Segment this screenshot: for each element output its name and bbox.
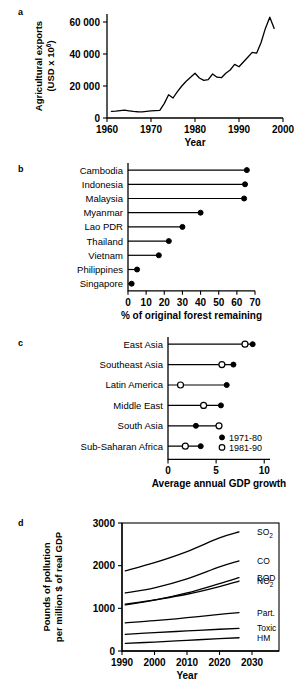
x-tick-label: 70 <box>249 297 261 308</box>
series-label-hm: HM <box>257 633 270 643</box>
x-tick-label: 2020 <box>208 657 231 668</box>
panel-d-pollution-intensity: d 199020002010202020300100020003000YearP… <box>0 495 299 692</box>
x-tick-label: 0 <box>125 297 131 308</box>
data-point-1981-90 <box>182 443 188 449</box>
series-label-so2: SO2 <box>257 527 273 539</box>
y-axis-title-line2: per million $ of real GDP <box>53 531 64 642</box>
data-point <box>242 196 247 201</box>
category-label: Vietnam <box>88 250 123 261</box>
y-tick-label: 40 000 <box>69 49 100 60</box>
panel-b-chart: CambodiaIndonesiaMalaysiaMyanmarLao PDRT… <box>0 155 299 323</box>
data-line-hm <box>125 638 239 644</box>
y-tick-label: 2000 <box>93 560 116 571</box>
y-tick-label: 60 000 <box>69 17 100 28</box>
data-point-1981-90 <box>219 362 225 368</box>
y-axis-title-line1: Pounds of pollution <box>41 542 52 631</box>
x-axis-title: Year <box>176 670 197 681</box>
data-point-1971-80 <box>250 342 255 347</box>
y-tick-label: 20 000 <box>69 81 100 92</box>
x-tick-label: 1990 <box>111 657 134 668</box>
x-tick-label: 1980 <box>184 124 207 135</box>
panel-c-gdp-growth: c East AsiaSoutheast AsiaLatin AmericaMi… <box>0 323 299 495</box>
x-tick-label: 10 <box>141 297 153 308</box>
x-tick-label: 1960 <box>96 124 119 135</box>
x-tick-label: 2000 <box>272 124 295 135</box>
category-label: Singapore <box>80 278 123 289</box>
data-line-no2 <box>125 581 239 604</box>
x-tick-label: 0 <box>165 465 171 476</box>
data-point <box>129 281 134 286</box>
x-axis-title: % of original forest remaining <box>121 310 262 321</box>
data-point-1971-80 <box>198 444 203 449</box>
data-point-1971-80 <box>231 362 236 367</box>
data-point <box>244 168 249 173</box>
data-point-1971-80 <box>193 423 198 428</box>
category-label: Thailand <box>87 236 123 247</box>
y-tick-label: 1000 <box>93 603 116 614</box>
x-tick-label: 2000 <box>143 657 166 668</box>
series-label-part.: Part. <box>257 608 275 618</box>
legend-label-1971-80: 1971-80 <box>229 433 262 443</box>
data-line-bod <box>125 578 239 605</box>
x-tick-label: 50 <box>213 297 225 308</box>
y-axis-title-line1: Agricultural exports <box>33 21 44 111</box>
category-label: Malaysia <box>86 193 124 204</box>
category-label: Indonesia <box>82 179 124 190</box>
data-point <box>156 253 161 258</box>
data-point-1981-90 <box>242 341 248 347</box>
x-tick-label: 10 <box>259 465 271 476</box>
x-tick-label: 5 <box>213 465 219 476</box>
data-point-1971-80 <box>218 403 223 408</box>
category-label: Southeast Asia <box>100 359 164 370</box>
data-point <box>243 182 248 187</box>
category-label: Philippines <box>77 264 123 275</box>
x-axis-title: Average annual GDP growth <box>152 478 286 489</box>
data-line-so2 <box>125 532 239 571</box>
x-tick-label: 40 <box>195 297 207 308</box>
category-label: Latin America <box>105 379 163 390</box>
y-tick-label: 0 <box>94 113 100 124</box>
category-label: Myanmar <box>83 207 123 218</box>
data-point <box>135 267 140 272</box>
data-line-toxic <box>125 628 239 634</box>
panel-b-forest-remaining: b CambodiaIndonesiaMalaysiaMyanmarLao PD… <box>0 155 299 323</box>
data-point-1971-80 <box>224 383 229 388</box>
data-point-1981-90 <box>201 402 207 408</box>
data-point <box>166 239 171 244</box>
panel-a-chart: 19601970198019902000020 00040 00060 000Y… <box>0 0 299 155</box>
x-tick-label: 30 <box>177 297 189 308</box>
x-tick-label: 1990 <box>228 124 251 135</box>
legend-label-1981-90: 1981-90 <box>229 443 262 453</box>
category-label: Lao PDR <box>84 221 123 232</box>
x-tick-label: 2010 <box>176 657 199 668</box>
panel-d-chart: 199020002010202020300100020003000YearPou… <box>0 495 299 692</box>
data-point-1981-90 <box>178 382 184 388</box>
category-label: Middle East <box>113 400 163 411</box>
legend-marker-1971-80 <box>220 435 225 440</box>
x-tick-label: 1970 <box>140 124 163 135</box>
panel-c-chart: East AsiaSoutheast AsiaLatin AmericaMidd… <box>0 323 299 495</box>
y-axis-title-line2: (USD x 106) <box>45 40 56 91</box>
data-line-agricultural-exports <box>111 17 274 112</box>
data-point-1981-90 <box>216 423 222 429</box>
legend-marker-1981-90 <box>219 445 225 451</box>
category-label: East Asia <box>123 339 163 350</box>
series-label-co: CO <box>257 556 270 566</box>
category-label: Sub-Saharan Africa <box>81 441 164 452</box>
category-label: Cambodia <box>80 165 124 176</box>
data-line-part. <box>125 613 239 623</box>
data-point <box>198 210 203 215</box>
y-tick-label: 3000 <box>93 518 116 529</box>
y-tick-label: 0 <box>109 646 115 657</box>
x-tick-label: 2030 <box>241 657 264 668</box>
x-tick-label: 60 <box>231 297 243 308</box>
panel-a-agricultural-exports: a 19601970198019902000020 00040 00060 00… <box>0 0 299 155</box>
data-point <box>180 224 185 229</box>
category-label: South Asia <box>118 420 164 431</box>
x-tick-label: 20 <box>159 297 171 308</box>
x-axis-title: Year <box>184 137 205 148</box>
